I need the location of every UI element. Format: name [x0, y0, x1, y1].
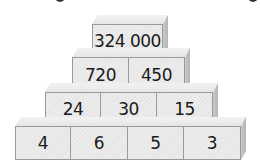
top-text-fragment-right	[248, 0, 258, 2]
pyramid-cell: 6	[71, 126, 128, 160]
pyramid-cell: 4	[15, 126, 71, 160]
block-top-face	[72, 48, 190, 57]
block-top-face	[45, 83, 218, 92]
top-text-fragment-left	[55, 0, 65, 2]
pyramid-row-4: 4 6 5 3	[15, 117, 246, 160]
pyramid-cell: 5	[128, 126, 184, 160]
pyramid-cell: 3	[184, 126, 241, 160]
block-top-face	[92, 15, 168, 24]
block-top-face	[15, 117, 246, 126]
